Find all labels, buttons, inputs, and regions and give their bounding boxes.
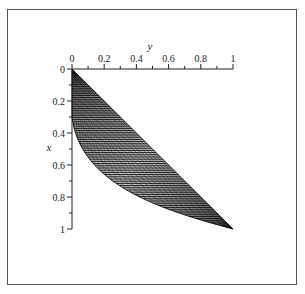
y-axis-title: x [46,141,52,153]
x-tick-label: 0 [70,53,75,64]
y-tick-label: 0 [60,64,65,75]
hatched-region [70,69,235,230]
y-tick-label: 0.2 [53,96,66,107]
x-tick-label: 0.2 [98,53,111,64]
x-tick-label: 0.8 [195,53,208,64]
x-tick-label: 0.4 [130,53,143,64]
x-axis-title: y [147,40,153,52]
y-tick-label: 0.8 [53,192,66,203]
y-tick-label: 0.6 [53,160,66,171]
x-tick-label: 0.6 [162,53,175,64]
y-tick-label: 0.4 [53,128,66,139]
x-tick-label: 1 [231,53,236,64]
plot-area: 00.20.40.60.8100.20.40.60.81 y x [0,0,305,294]
y-tick-label: 1 [60,224,65,235]
